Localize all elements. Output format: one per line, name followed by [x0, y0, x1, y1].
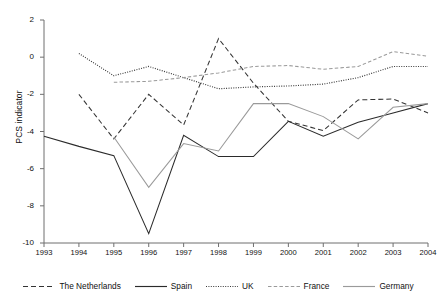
- legend-label: The Netherlands: [59, 281, 120, 291]
- solid-line-icon: [135, 282, 167, 291]
- x-tick-label: 1993: [27, 248, 61, 257]
- y-tick-label: -2: [12, 89, 34, 98]
- y-tick-label: -6: [12, 164, 34, 173]
- legend-item-uk[interactable]: UK: [206, 281, 254, 291]
- plot-area: [0, 0, 437, 304]
- legend-label: UK: [242, 281, 254, 291]
- y-tick-label: -10: [12, 238, 34, 247]
- x-tick-label: 2003: [376, 248, 410, 257]
- y-tick-label: 0: [12, 52, 34, 61]
- dashed-line-icon: [23, 282, 55, 291]
- y-tick-label: -4: [12, 127, 34, 136]
- y-tick-label: -8: [12, 201, 34, 210]
- dotted-line-icon: [206, 282, 238, 291]
- legend-label: France: [304, 281, 330, 291]
- x-tick-label: 1997: [167, 248, 201, 257]
- legend-item-the-netherlands[interactable]: The Netherlands: [23, 281, 120, 291]
- legend-item-spain[interactable]: Spain: [135, 281, 192, 291]
- x-tick-label: 1996: [132, 248, 166, 257]
- y-axis-ticks: [40, 20, 44, 243]
- x-tick-label: 1995: [97, 248, 131, 257]
- chart-legend: The NetherlandsSpainUKFranceGermany: [0, 277, 437, 295]
- series-line-france: [114, 52, 428, 83]
- x-tick-label: 1998: [202, 248, 236, 257]
- x-axis-ticks: [44, 243, 428, 247]
- legend-label: Germany: [379, 281, 413, 291]
- pcs-indicator-line-chart: PCS indicator 20-2-4-6-8-10 199319941995…: [0, 0, 437, 304]
- fine-dashed-line-icon: [268, 282, 300, 291]
- x-tick-label: 2002: [341, 248, 375, 257]
- y-tick-label: 2: [12, 15, 34, 24]
- x-tick-label: 1999: [236, 248, 270, 257]
- x-tick-label: 2001: [306, 248, 340, 257]
- series-lines: [44, 39, 428, 234]
- solid-gray-line-icon: [343, 282, 375, 291]
- legend-item-germany[interactable]: Germany: [343, 281, 413, 291]
- x-tick-label: 1994: [62, 248, 96, 257]
- legend-item-france[interactable]: France: [268, 281, 330, 291]
- x-tick-label: 2004: [411, 248, 437, 257]
- series-line-the-netherlands: [79, 39, 428, 139]
- x-tick-label: 2000: [271, 248, 305, 257]
- legend-label: Spain: [171, 281, 192, 291]
